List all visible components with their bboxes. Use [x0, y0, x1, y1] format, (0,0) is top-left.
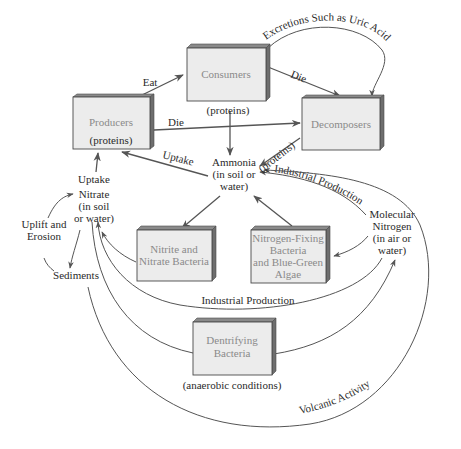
sediments-label: Sediments: [53, 269, 99, 281]
nitrate-node: Uptake Nitrate (in soil or water): [74, 173, 114, 225]
nitrite-nitrate-bacteria-box: Nitrite and Nitrate Bacteria: [137, 226, 216, 281]
nitrogen-fixing-line4: Algae: [275, 268, 301, 280]
nitrate-to-sediments-arrow: [70, 230, 80, 268]
nitrite-bacteria-line1: Nitrite and: [150, 243, 198, 255]
producers-sublabel: (proteins): [90, 134, 133, 147]
nitrate-line3: or water): [74, 212, 114, 225]
dentrifying-line1: Dentrifying: [206, 334, 258, 346]
decomposers-label: Decomposers: [311, 118, 371, 130]
uplift-erosion-arrow: [48, 194, 73, 218]
eat-label: Eat: [143, 76, 158, 88]
nitrogen-cycle-diagram: Excretions Such as Uric Acid Industrial …: [0, 0, 461, 449]
nitrogen-fixing-line2: Bacteria: [270, 244, 307, 256]
dentrifying-line2: Bacteria: [214, 347, 251, 359]
producers-label: Producers: [89, 116, 133, 128]
uplift-line2: Erosion: [27, 230, 62, 242]
nitrogen-fixing-bacteria-box: Nitrogen-Fixing Bacteria and Blue-Green …: [251, 226, 330, 283]
consumers-sublabel: (proteins): [207, 104, 250, 117]
consumers-label: Consumers: [201, 68, 251, 80]
nitrogen-fixing-line3: and Blue-Green: [253, 256, 323, 268]
dentrifying-bacteria-box: Dentrifying Bacteria (anaerobic conditio…: [183, 318, 282, 392]
industrial-production-bottom-label: Industrial Production: [201, 294, 295, 306]
molecular-nitrogen-line1: Molecular: [369, 208, 415, 220]
molecular-nitrogen-line2: Nitrogen: [372, 220, 412, 232]
uplift-line1: Uplift and: [22, 218, 67, 230]
ammonia-to-nitrite-bacteria-arrow: [182, 196, 220, 228]
decomposers-box: Decomposers: [302, 95, 384, 150]
nitrate-uptake-arrow: [96, 153, 98, 172]
industrial-production-top-label: Industrial Production: [274, 162, 367, 207]
die-producers-label: Die: [168, 116, 184, 128]
nitrate-line1: Nitrate: [79, 188, 110, 200]
consumers-box: Consumers (proteins): [187, 44, 270, 117]
ammonia-line3: water): [220, 180, 248, 193]
molecular-nitrogen-to-nitrogen-fixing-arrow: [334, 236, 368, 256]
nitrite-bacteria-line2: Nitrate Bacteria: [139, 255, 209, 267]
molecular-nitrogen-line4: water): [378, 244, 406, 257]
producers-box: Producers (proteins): [73, 94, 154, 149]
nitrogen-fixing-to-ammonia-arrow: [254, 196, 292, 226]
nitrogen-fixing-line1: Nitrogen-Fixing: [252, 232, 324, 244]
ammonia-node: Ammonia (in soil or water): [212, 156, 256, 193]
molecular-nitrogen-node: Molecular Nitrogen (in air or water): [369, 208, 415, 257]
nitrite-bacteria-to-nitrate-arrow: [102, 232, 136, 262]
volcanic-activity-label: Volcanic Activity: [298, 377, 372, 416]
excretions-arrow: [268, 27, 385, 96]
nitrate-uptake-label: Uptake: [78, 173, 110, 185]
ammonia-line1: Ammonia: [212, 156, 256, 168]
uplift-erosion-node: Uplift and Erosion: [22, 218, 67, 242]
dentrifying-sublabel: (anaerobic conditions): [183, 379, 282, 392]
